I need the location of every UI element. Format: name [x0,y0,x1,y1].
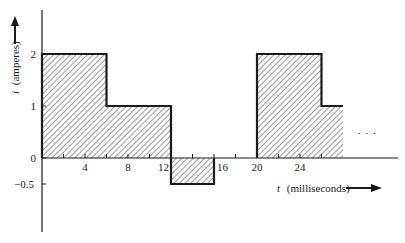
y-tick-label: −0.5 [14,178,34,190]
svg-text:i (amperes): i (amperes) [9,41,22,94]
waveform-segment-fill [171,158,214,184]
y-tick-label: 1 [31,100,37,112]
x-tick-label: 8 [125,161,131,173]
x-axis-unit: (milliseconds) [287,182,350,195]
x-tick-label: 20 [252,161,264,173]
y-axis-unit: (amperes) [9,41,22,85]
waveform-segment-fill [107,106,172,158]
x-axis-label: t (milliseconds) [277,182,350,195]
y-tick-label: 0 [31,152,37,164]
y-axis-variable: i [9,91,21,94]
current-waveform-chart: 4812162024 210−0.5 i (amperes) t (millis… [0,0,405,243]
y-axis-arrow-icon [11,16,19,44]
x-axis-arrow-icon [346,184,382,192]
x-axis-variable: t [277,182,281,194]
x-tick-label: 16 [217,161,229,173]
y-axis-label: i (amperes) [9,41,22,94]
waveform-segment-fill [257,54,322,158]
y-tick-label: 2 [31,48,37,60]
x-tick-label: 12 [158,161,169,173]
waveform-segment-fill [42,54,107,158]
x-tick-label: 4 [82,161,88,173]
x-tick-label: 24 [295,161,307,173]
continuation-ellipsis: . . . [358,124,377,136]
waveform-segment-fill [322,106,344,158]
